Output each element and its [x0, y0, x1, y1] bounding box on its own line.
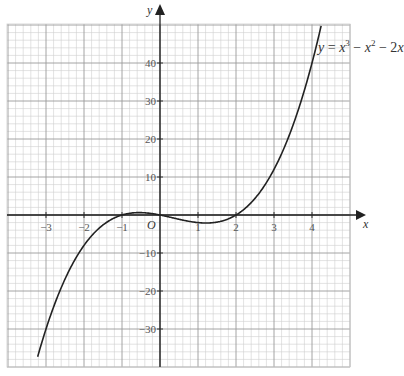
- x-tick-label: 4: [309, 221, 315, 233]
- equation-label: y = x3 − x2 − 2x: [316, 38, 404, 55]
- cubic-curve: [38, 26, 321, 357]
- y-axis-arrow-icon: [155, 4, 165, 15]
- y-tick-label: −20: [139, 285, 157, 297]
- y-tick-label: 30: [145, 95, 157, 107]
- cubic-graph: x y −3−2−11234 40302010−10−20−30 O y = x…: [0, 0, 404, 376]
- x-tick-label: −2: [78, 221, 90, 233]
- grid-border: [7, 24, 350, 367]
- grid-minor-lines: [7, 24, 350, 367]
- x-axis-label: x: [362, 217, 369, 231]
- x-tick-label: 3: [271, 221, 277, 233]
- x-tick-label: 2: [233, 221, 239, 233]
- origin-label: O: [147, 218, 156, 232]
- eq-equals: =: [324, 40, 339, 55]
- y-axis-label: y: [146, 3, 153, 17]
- y-tick-label: −30: [139, 323, 157, 335]
- y-tick-label: 10: [145, 171, 157, 183]
- x-tick-label: −1: [116, 221, 128, 233]
- grid-major-lines: [7, 24, 350, 367]
- y-tick-label: −10: [139, 247, 157, 259]
- eq-x: x: [396, 40, 404, 55]
- eq-minus2: − 2: [375, 40, 397, 55]
- y-tick-label: 40: [145, 57, 157, 69]
- eq-minus1: −: [350, 40, 365, 55]
- y-tick-label: 20: [145, 133, 157, 145]
- x-tick-label: −3: [40, 221, 52, 233]
